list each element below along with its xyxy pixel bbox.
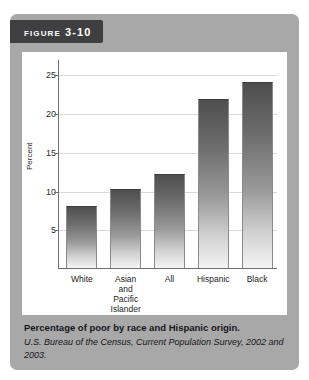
y-axis-tick (54, 230, 58, 231)
y-axis-tick (54, 114, 58, 115)
chart-plot-area: Percent 510152025 WhiteAsianandPacificIs… (22, 52, 287, 315)
bar (198, 99, 229, 268)
figure-card: Figure 3-10 Percent 510152025 WhiteAsian… (10, 14, 299, 370)
bar (242, 82, 273, 268)
figure-number-label: Figure 3-10 (24, 26, 91, 38)
figure-caption: Percentage of poor by race and Hispanic … (24, 322, 292, 361)
bar (154, 174, 185, 268)
x-axis-tick-label: Black (228, 274, 286, 284)
y-axis-tick (54, 75, 58, 76)
caption-source: U.S. Bureau of the Census, Current Popul… (24, 336, 292, 361)
gridline (59, 75, 277, 76)
chart-axes (58, 60, 277, 269)
y-axis-title: Percent (25, 142, 34, 170)
figure-number-tag: Figure 3-10 (10, 20, 103, 43)
x-axis-line (58, 268, 277, 269)
caption-title: Percentage of poor by race and Hispanic … (24, 322, 292, 334)
bar (110, 189, 141, 268)
y-axis-line (58, 60, 59, 269)
y-axis-tick (54, 192, 58, 193)
chart-panel: Percent 510152025 WhiteAsianandPacificIs… (22, 52, 287, 315)
bar (66, 206, 97, 268)
y-axis-tick (54, 153, 58, 154)
